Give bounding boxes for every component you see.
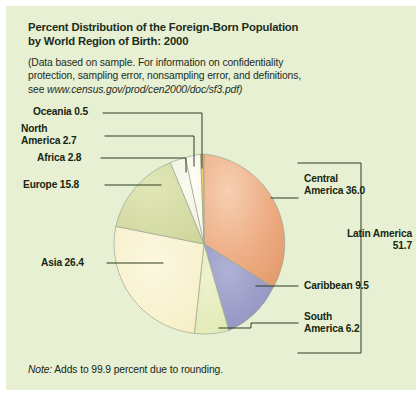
group-label-latin-america: Latin America 51.7 xyxy=(294,228,412,252)
pie-label-north-america-line1: North xyxy=(21,123,47,134)
census-url-link[interactable]: www.census.gov/prod/cen2000/doc/sf3.pdf) xyxy=(47,84,242,95)
pie-slice-caribbean[interactable] xyxy=(204,244,273,331)
figure-note: Note: Adds to 99.9 percent due to roundi… xyxy=(28,364,223,375)
pie-slice-south-america[interactable] xyxy=(194,244,229,334)
pie-slice-africa[interactable] xyxy=(170,158,204,244)
subtitle-see-prefix: see xyxy=(28,84,47,95)
pie-slice-europe[interactable] xyxy=(116,163,204,244)
figure-subtitle: (Data based on sample. For information o… xyxy=(28,56,368,97)
title-line-1: Percent Distribution of the Foreign-Born… xyxy=(28,20,368,34)
note-text: Adds to 99.9 percent due to rounding. xyxy=(52,364,223,375)
pie-slices xyxy=(114,154,285,334)
pie-label-oceania: Oceania 0.5 xyxy=(33,106,88,118)
leader-line-oceania xyxy=(103,113,202,168)
pie-slice-oceania[interactable] xyxy=(201,154,204,244)
leader-line-south-america xyxy=(219,323,298,328)
leader-line-africa xyxy=(101,158,186,172)
group-label-latin-america-line1: Latin America xyxy=(347,228,412,239)
group-label-latin-america-line2: 51.7 xyxy=(393,240,412,251)
title-line-2: by World Region of Birth: 2000 xyxy=(28,34,368,48)
pie-label-north-america: North America 2.7 xyxy=(21,123,77,147)
leader-lines xyxy=(101,113,298,328)
pie-label-central-america: Central America 36.0 xyxy=(304,173,365,197)
pie-label-central-america-line1: Central xyxy=(304,173,338,184)
figure-panel: Percent Distribution of the Foreign-Born… xyxy=(6,6,416,390)
pie-label-south-america: South America 6.2 xyxy=(304,311,360,335)
pie-slice-north-america[interactable] xyxy=(185,154,204,244)
pie-label-south-america-line1: South xyxy=(304,311,332,322)
page-title: Percent Distribution of the Foreign-Born… xyxy=(28,20,368,49)
pie-label-central-america-line2: America 36.0 xyxy=(304,185,365,196)
pie-label-north-america-line2: America 2.7 xyxy=(21,135,77,146)
subtitle-line-3: see www.census.gov/prod/cen2000/doc/sf3.… xyxy=(28,83,368,97)
pie-label-asia: Asia 26.4 xyxy=(41,257,84,269)
pie-slice-central-america[interactable] xyxy=(204,154,285,287)
pie-label-south-america-line2: America 6.2 xyxy=(304,323,360,334)
subtitle-line-1: (Data based on sample. For information o… xyxy=(28,56,368,70)
pie-label-caribbean: Caribbean 9.5 xyxy=(304,280,369,292)
pie-label-africa: Africa 2.8 xyxy=(37,152,81,164)
note-label: Note: xyxy=(28,364,52,375)
subtitle-line-2: protection, sampling error, nonsampling … xyxy=(28,69,368,83)
leader-line-north-america xyxy=(105,136,194,166)
figure-header: Percent Distribution of the Foreign-Born… xyxy=(28,20,368,97)
pie-label-europe: Europe 15.8 xyxy=(23,179,79,191)
pie-slice-asia[interactable] xyxy=(114,226,204,333)
